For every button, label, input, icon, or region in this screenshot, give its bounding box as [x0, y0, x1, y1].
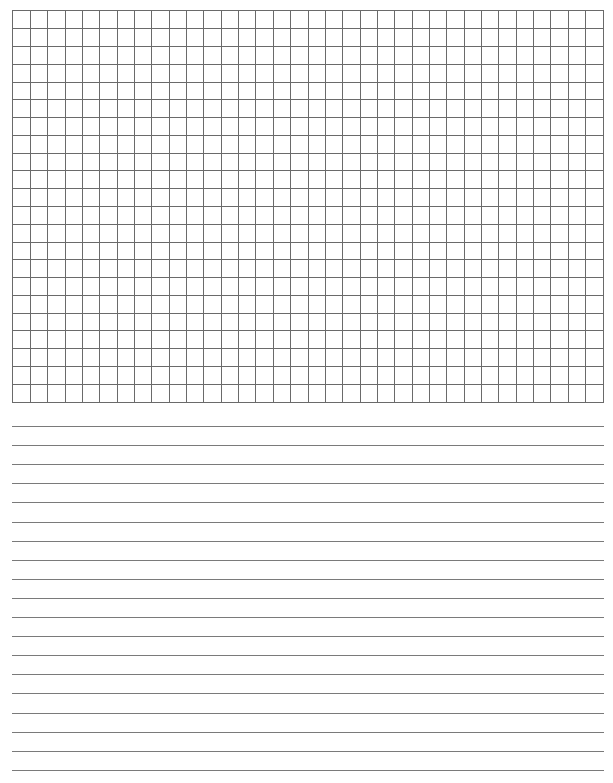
ruled-line [12, 560, 604, 561]
ruled-line [12, 445, 604, 446]
ruled-line [12, 502, 604, 503]
ruled-line [12, 770, 604, 771]
ruled-line [12, 617, 604, 618]
ruled-line [12, 598, 604, 599]
ruled-line [12, 522, 604, 523]
ruled-line [12, 751, 604, 752]
ruled-line [12, 732, 604, 733]
ruled-line [12, 483, 604, 484]
ruled-line [12, 426, 604, 427]
ruled-line [12, 693, 604, 694]
ruled-line [12, 464, 604, 465]
ruled-line [12, 579, 604, 580]
ruled-line [12, 713, 604, 714]
ruled-line [12, 674, 604, 675]
ruled-line [12, 636, 604, 637]
ruled-line [12, 655, 604, 656]
ruled-lines-section [12, 0, 604, 783]
ruled-line [12, 541, 604, 542]
